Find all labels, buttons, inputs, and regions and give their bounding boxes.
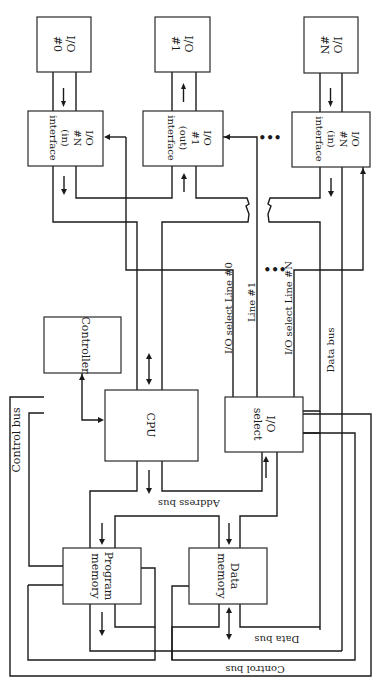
arrow-up-icon xyxy=(146,353,152,359)
arrow-down-icon xyxy=(99,630,105,636)
data-memory-line1: Data xyxy=(228,563,241,590)
io-interface-n-in-right: I/O #N (in) interface xyxy=(292,112,370,167)
if-right-line1: I/O xyxy=(350,131,361,147)
if-left-line2: #N xyxy=(72,129,83,146)
io-select-line1: I/O xyxy=(264,415,277,432)
io-device-n: I/O #N xyxy=(304,17,358,73)
data-memory-block: Data memory xyxy=(189,548,267,604)
controller-label: Controller xyxy=(79,316,92,374)
ellipsis-top: ••• xyxy=(258,131,281,145)
if-right-line3: (in) xyxy=(326,130,337,148)
if-left-line3: (in) xyxy=(60,129,71,147)
program-memory-block: Program memory xyxy=(63,548,141,604)
control-bus-left-label: Control bus xyxy=(10,407,23,473)
program-memory-line1: Program xyxy=(102,552,115,601)
svg-text:Data bus: Data bus xyxy=(254,634,299,645)
if-mid-line2: #1 xyxy=(190,131,201,146)
io-select-line2: select xyxy=(251,408,264,441)
svg-text:Control bus: Control bus xyxy=(10,407,23,473)
ioN-label-line2: #N xyxy=(318,36,331,55)
arrow-right-icon xyxy=(98,417,104,423)
arrow-down-icon xyxy=(99,539,105,545)
io1-label-line2: #1 xyxy=(169,36,182,52)
data-bus-bottom-label: Data bus xyxy=(254,634,299,645)
arrow-left-icon xyxy=(224,134,230,140)
io-select-line1-label: Line #1 xyxy=(246,282,257,322)
io0-label-line1: I/O xyxy=(64,35,77,52)
io-select-block: I/O select xyxy=(225,397,303,452)
arrow-up-icon xyxy=(79,374,85,380)
if-right-line2: #N xyxy=(338,130,349,147)
io-interface-1-out: I/O #1 (out) interface xyxy=(143,111,223,166)
program-memory-line2: memory xyxy=(89,553,102,599)
arrow-down-icon xyxy=(146,379,152,385)
arrow-up-icon xyxy=(360,168,366,174)
arrow-up-icon xyxy=(226,607,232,613)
arrow-down-icon xyxy=(61,189,67,195)
io-device-1: I/O #1 xyxy=(155,17,210,72)
control-bus-bottom-label: Control bus xyxy=(225,664,284,675)
arrow-down-icon xyxy=(226,539,232,545)
io0-label-line2: #0 xyxy=(51,36,64,52)
data-memory-line2: memory xyxy=(215,553,228,599)
io1-label-line1: I/O xyxy=(182,35,195,52)
address-bus-label: Address bus xyxy=(158,498,221,509)
data-bus-right-label: Data bus xyxy=(325,327,336,372)
svg-text:Control bus: Control bus xyxy=(225,664,284,675)
arrow-down-icon xyxy=(328,191,334,197)
arrow-up-icon xyxy=(181,173,187,179)
arrow-down-icon xyxy=(146,488,152,494)
ioN-label-line1: I/O xyxy=(331,36,344,53)
ellipsis-lines: ••• xyxy=(263,263,286,277)
io-select-line0-label: I/O select Line #0 xyxy=(223,262,234,354)
svg-text:Line #1: Line #1 xyxy=(246,282,257,322)
svg-text:Address bus: Address bus xyxy=(158,498,221,509)
io-interface-n-in-left: I/O #N (in) interface xyxy=(28,111,103,166)
arrow-down-icon xyxy=(226,634,232,640)
if-right-line4: interface xyxy=(314,116,325,162)
if-left-line4: interface xyxy=(48,115,59,161)
arrow-up-icon xyxy=(263,456,269,462)
if-mid-line1: I/O xyxy=(202,130,213,146)
cpu-block: CPU xyxy=(105,390,198,461)
if-mid-line4: interface xyxy=(166,115,177,161)
computer-block-diagram: I/O #0 I/O #1 I/O #N I/O #N (in) interfa… xyxy=(0,0,386,689)
if-left-line1: I/O xyxy=(84,130,95,146)
controller-block: Controller xyxy=(44,316,121,374)
cpu-label: CPU xyxy=(144,413,157,438)
arrow-left-icon xyxy=(104,134,110,140)
if-mid-line3: (out) xyxy=(178,126,189,150)
svg-text:I/O select Line #0: I/O select Line #0 xyxy=(223,262,234,354)
svg-text:Data bus: Data bus xyxy=(325,327,336,372)
io-device-0: I/O #0 xyxy=(37,17,91,72)
